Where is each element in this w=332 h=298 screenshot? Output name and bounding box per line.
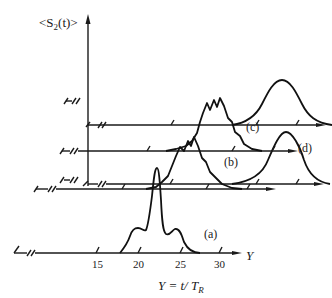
baseline-d — [83, 179, 324, 187]
curve-d — [232, 132, 330, 184]
axis-a-line — [14, 246, 242, 256]
x-axis-caption: Y = t/ TR — [158, 278, 204, 295]
tick-label-15: 15 — [92, 258, 104, 270]
tick-label-30: 30 — [214, 258, 226, 270]
label-c: (c) — [246, 120, 259, 134]
curve-d-bell — [232, 80, 332, 125]
stacked-waveform-chart: <S2(t)> (d) — [0, 0, 332, 298]
tick-label-25: 25 — [175, 258, 187, 270]
label-a: (a) — [204, 227, 217, 241]
baseline-c — [60, 177, 78, 183]
y-axis-label: <S2(t)> — [39, 15, 78, 32]
tick-label-20: 20 — [133, 258, 145, 270]
axis-d-line — [86, 120, 326, 128]
label-d: (d) — [298, 141, 312, 155]
curve-a — [120, 168, 200, 253]
label-b: (b) — [224, 155, 238, 169]
y-axis — [86, 14, 91, 186]
axis-row-d — [64, 98, 80, 104]
x-axis-symbol: Y — [246, 248, 255, 263]
